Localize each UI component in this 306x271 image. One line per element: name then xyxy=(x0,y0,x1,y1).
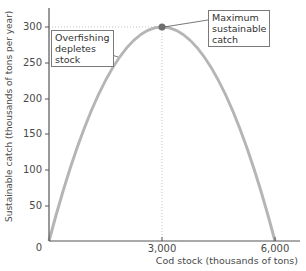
y-axis-title: Sustainable catch (thousands of tons per… xyxy=(4,11,14,222)
y-tick-label-300: 300 xyxy=(16,22,42,32)
overfishing-callout-line-3: stock xyxy=(55,54,110,65)
y-tick-label-100: 100 xyxy=(16,165,42,175)
overfishing-callout: Overfishing depletes stock xyxy=(51,30,114,67)
y-tick-label-150: 150 xyxy=(16,129,42,139)
maximum-sustainable-catch-callout: Maximum sustainable catch xyxy=(208,10,270,47)
maximum-callout-line-1: Maximum xyxy=(212,12,266,23)
maximum-sustainable-catch-point xyxy=(159,24,166,31)
maximum-callout-line-2: sustainable xyxy=(212,23,266,34)
x-tick-label-6000: 6,000 xyxy=(255,244,295,254)
y-tick-label-250: 250 xyxy=(16,58,42,68)
origin-label: 0 xyxy=(16,243,42,253)
overfishing-callout-line-1: Overfishing xyxy=(55,32,110,43)
x-tick-label-3000: 3,000 xyxy=(142,244,182,254)
x-axis-title: Cod stock (thousands of tons) xyxy=(156,255,298,266)
maximum-leader-line xyxy=(164,20,208,27)
overfishing-callout-line-2: depletes xyxy=(55,43,110,54)
y-tick-label-200: 200 xyxy=(16,94,42,104)
sustainable-catch-chart: 300 250 200 150 100 50 0 3,000 6,000 Sus… xyxy=(0,0,306,271)
y-tick-label-50: 50 xyxy=(16,201,42,211)
maximum-callout-line-3: catch xyxy=(212,34,266,45)
